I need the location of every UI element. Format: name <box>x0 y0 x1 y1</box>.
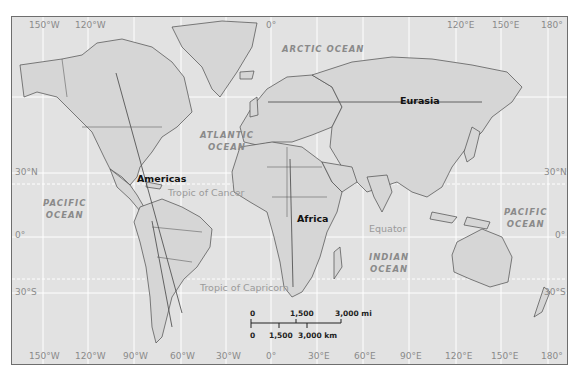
longitude-label: 60°E <box>354 351 376 361</box>
longitude-label: 30°W <box>216 351 241 361</box>
longitude-label: 90°W <box>123 351 148 361</box>
latitude-label: 0° <box>555 230 565 240</box>
longitude-label: 120°W <box>75 351 106 361</box>
tropic-of-cancer-label: Tropic of Cancer <box>168 187 244 198</box>
longitude-label: 120°E <box>445 351 472 361</box>
longitude-label: 150°E <box>491 351 518 361</box>
longitude-label: 180° <box>541 351 563 361</box>
latitude-label: 30°N <box>544 167 567 177</box>
pacific-ocean-west-label: PACIFIC OCEAN <box>43 197 86 221</box>
longitude-label: 60°W <box>170 351 195 361</box>
world-map: 150°W 120°W 0° 120°E 150°E 180° 150°W 12… <box>11 16 568 365</box>
longitude-label: 150°W <box>29 351 60 361</box>
pacific-ocean-east-label: PACIFIC OCEAN <box>504 206 547 230</box>
africa-label: Africa <box>297 213 328 224</box>
longitude-label: 30°E <box>308 351 330 361</box>
longitude-label: 150°E <box>492 20 519 30</box>
longitude-label: 150°W <box>29 20 60 30</box>
longitude-label: 0° <box>266 351 276 361</box>
tropic-of-capricorn-label: Tropic of Capricorn <box>200 282 289 293</box>
latitude-label: 30°S <box>15 287 37 297</box>
land-masses <box>20 21 550 343</box>
scale-bar: 0 1,500 3,000 mi 0 1,500 3,000 km <box>245 309 365 341</box>
atlantic-ocean-label: ATLANTIC OCEAN <box>200 129 254 153</box>
americas-label: Americas <box>137 173 186 184</box>
scale-bar-line <box>245 319 365 331</box>
latitude-label: 30°N <box>15 167 38 177</box>
longitude-label: 0° <box>266 20 276 30</box>
latitude-label: 0° <box>15 230 25 240</box>
indian-ocean-label: INDIAN OCEAN <box>369 251 409 275</box>
arctic-ocean-label: ARCTIC OCEAN <box>282 43 364 55</box>
equator-label: Equator <box>369 223 406 234</box>
eurasia-label: Eurasia <box>400 95 440 106</box>
longitude-label: 120°E <box>447 20 474 30</box>
longitude-label: 180° <box>541 20 563 30</box>
longitude-label: 90°E <box>400 351 422 361</box>
latitude-label: 30°S <box>544 287 566 297</box>
longitude-label: 120°W <box>75 20 106 30</box>
